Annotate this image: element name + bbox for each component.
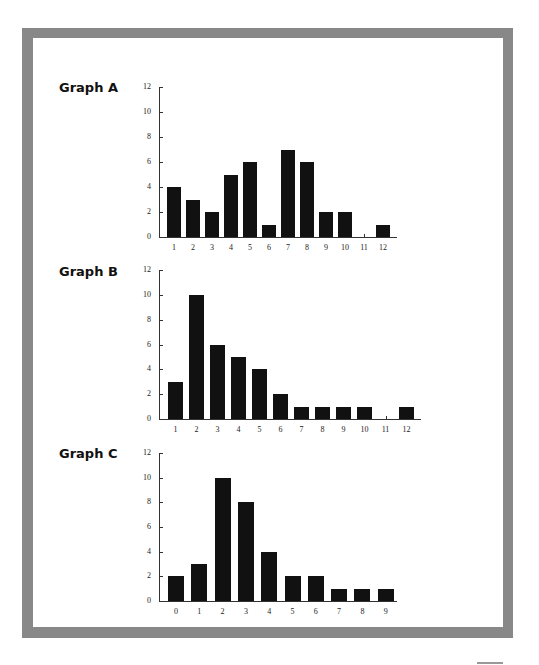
bar-12 (399, 407, 414, 419)
y-tick (159, 478, 163, 479)
y-tick-label: 2 (137, 207, 151, 216)
graph-a-title: Graph A (59, 80, 118, 95)
x-tick-label: 6 (261, 243, 277, 252)
x-tick-label: 6 (273, 425, 289, 434)
bar-10 (338, 212, 352, 237)
y-tick-label: 8 (137, 315, 151, 324)
y-tick-label: 4 (137, 547, 151, 556)
y-tick (159, 552, 163, 553)
y-tick (159, 601, 163, 602)
x-tick-label: 10 (357, 425, 373, 434)
zero-marker (364, 234, 365, 237)
y-tick-label: 10 (137, 107, 151, 116)
figure-panel (33, 38, 503, 627)
x-axis (159, 237, 397, 238)
y-tick (159, 187, 163, 188)
x-tick-label: 9 (318, 243, 334, 252)
y-tick (159, 369, 163, 370)
x-tick-label: 4 (261, 607, 277, 616)
x-tick-label: 2 (215, 607, 231, 616)
x-tick-label: 10 (337, 243, 353, 252)
y-tick-label: 2 (137, 389, 151, 398)
bar-9 (336, 407, 351, 419)
y-tick-label: 10 (137, 290, 151, 299)
bar-1 (191, 564, 207, 601)
x-tick-label: 8 (315, 425, 331, 434)
x-axis (159, 601, 397, 602)
bar-1 (167, 187, 181, 237)
x-tick-label: 1 (191, 607, 207, 616)
y-tick-label: 12 (137, 265, 151, 274)
bar-4 (224, 175, 238, 238)
bar-6 (273, 394, 288, 419)
bar-8 (300, 162, 314, 237)
y-tick (159, 576, 163, 577)
bar-5 (285, 576, 301, 601)
x-tick-label: 2 (185, 243, 201, 252)
y-tick-label: 6 (137, 522, 151, 531)
y-tick-label: 12 (137, 82, 151, 91)
bar-12 (376, 225, 390, 238)
x-tick-label: 0 (168, 607, 184, 616)
x-tick-label: 11 (356, 243, 372, 252)
x-tick-label: 5 (242, 243, 258, 252)
x-tick-label: 1 (168, 425, 184, 434)
y-tick-label: 6 (137, 157, 151, 166)
figure-frame (22, 28, 513, 638)
x-tick-label: 3 (238, 607, 254, 616)
y-tick (159, 320, 163, 321)
x-tick-label: 5 (285, 607, 301, 616)
x-tick-label: 11 (378, 425, 394, 434)
y-tick-label: 12 (137, 448, 151, 457)
bar-3 (210, 345, 225, 420)
y-tick (159, 237, 163, 238)
bar-2 (189, 295, 204, 419)
x-tick-label: 7 (331, 607, 347, 616)
bar-2 (215, 478, 231, 601)
x-tick-label: 4 (223, 243, 239, 252)
bar-3 (238, 502, 254, 601)
bar-6 (308, 576, 324, 601)
y-tick (159, 345, 163, 346)
y-tick (159, 527, 163, 528)
y-tick (159, 394, 163, 395)
x-tick-label: 2 (189, 425, 205, 434)
x-tick-label: 1 (166, 243, 182, 252)
x-tick-label: 9 (336, 425, 352, 434)
y-tick (159, 212, 163, 213)
bar-7 (331, 589, 347, 601)
y-tick-label: 10 (137, 473, 151, 482)
y-tick (159, 137, 163, 138)
y-tick-label: 8 (137, 132, 151, 141)
bar-0 (168, 576, 184, 601)
bar-2 (186, 200, 200, 238)
x-tick-label: 3 (204, 243, 220, 252)
y-tick (159, 419, 163, 420)
y-tick-label: 2 (137, 571, 151, 580)
zero-marker (386, 416, 387, 419)
x-tick-label: 9 (378, 607, 394, 616)
bar-7 (294, 407, 309, 419)
bar-6 (262, 225, 276, 238)
y-tick-label: 4 (137, 364, 151, 373)
x-axis (159, 419, 421, 420)
y-tick-label: 0 (137, 596, 151, 605)
bar-4 (231, 357, 246, 419)
graph-c-title: Graph C (59, 446, 117, 461)
y-tick-label: 0 (137, 232, 151, 241)
x-tick-label: 7 (280, 243, 296, 252)
bar-4 (261, 552, 277, 601)
graph-b-title: Graph B (59, 264, 118, 279)
y-tick (159, 453, 163, 454)
bar-1 (168, 382, 183, 419)
bar-8 (315, 407, 330, 419)
bar-5 (243, 162, 257, 237)
y-tick (159, 295, 163, 296)
bar-7 (281, 150, 295, 238)
y-tick-label: 8 (137, 497, 151, 506)
y-tick (159, 270, 163, 271)
bar-9 (378, 589, 394, 601)
y-tick-label: 6 (137, 340, 151, 349)
bar-5 (252, 369, 267, 419)
bar-9 (319, 212, 333, 237)
